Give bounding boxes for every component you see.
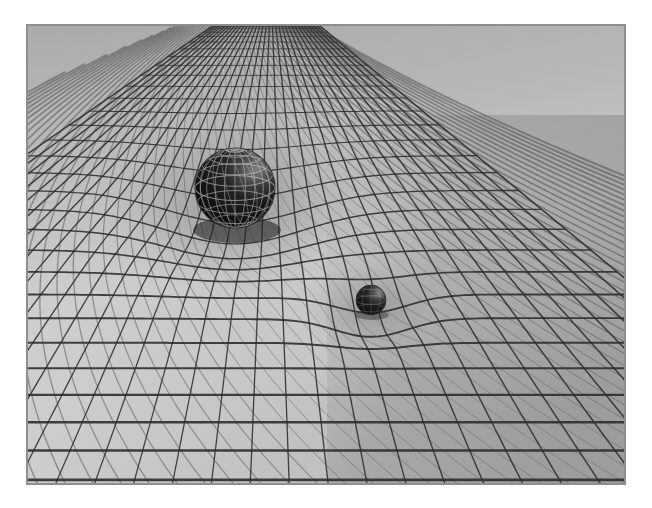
spacetime-grid-svg (27, 25, 625, 484)
illustration-frame (27, 25, 625, 484)
grid-line (27, 368, 625, 369)
figure-canvas: Warped grid mesh deformed by two masses … (0, 0, 652, 508)
grid-line (126, 86, 393, 87)
